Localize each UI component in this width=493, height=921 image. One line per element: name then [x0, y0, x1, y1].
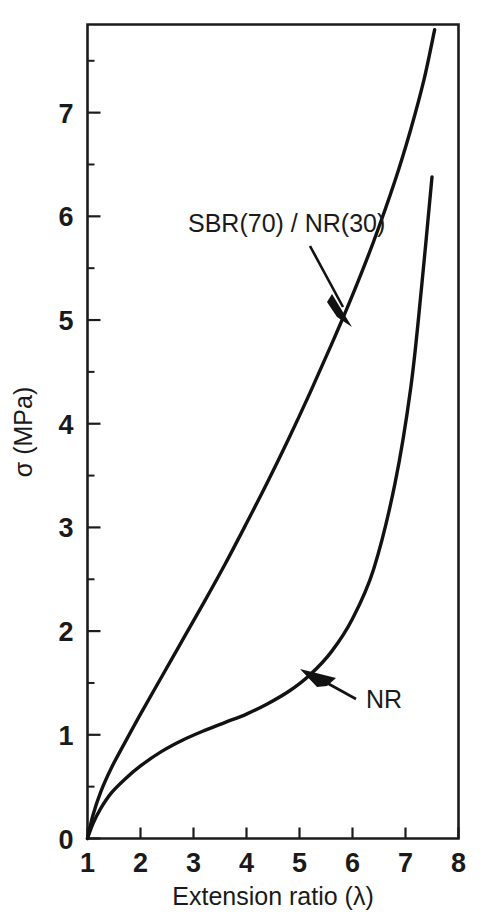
x-tick-label: 5 [292, 848, 307, 878]
y-tick-label: 7 [58, 99, 73, 129]
series-label-sbr: SBR(70) / NR(30) [188, 209, 385, 237]
y-tick-label: 2 [58, 617, 73, 647]
x-tick-label: 1 [80, 848, 95, 878]
y-tick-label: 5 [58, 306, 73, 336]
x-tick-label: 8 [451, 848, 466, 878]
y-tick-label: 3 [58, 513, 73, 543]
y-tick-label: 1 [58, 721, 73, 751]
stress-strain-figure: 01234567 12345678 SBR(70) / NR(30) NR Ex… [0, 0, 493, 921]
x-axis-title: Extension ratio (λ) [172, 882, 373, 910]
series-label-nr: NR [366, 685, 402, 713]
x-tick-label: 6 [345, 848, 360, 878]
y-tick-label: 4 [58, 410, 73, 440]
x-tick-label: 4 [239, 848, 254, 878]
y-tick-label: 0 [58, 825, 73, 855]
y-tick-label: 6 [58, 202, 73, 232]
chart-background [0, 0, 493, 921]
y-axis-title: σ (MPa) [9, 387, 37, 477]
x-tick-label: 7 [398, 848, 413, 878]
chart-canvas: 01234567 12345678 SBR(70) / NR(30) NR Ex… [0, 0, 493, 921]
x-tick-label: 3 [186, 848, 201, 878]
x-tick-label: 2 [133, 848, 148, 878]
